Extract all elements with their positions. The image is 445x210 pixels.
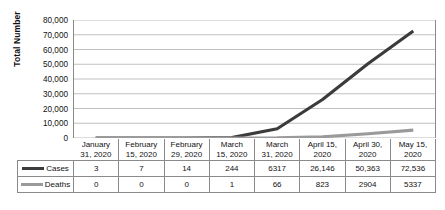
table-header-row: January31, 2020February15, 2020February2… [18, 139, 436, 161]
cell-deaths-4: 1 [209, 177, 254, 193]
table-corner-cell [18, 139, 74, 161]
category-header-1: January31, 2020 [74, 139, 119, 161]
category-header-3: February29, 2020 [164, 139, 209, 161]
table-row: Deaths00016682329045337 [18, 177, 436, 193]
table-row: Cases3714244631726,14650,36372,536 [18, 161, 436, 177]
cell-cases-8: 72,536 [390, 161, 435, 177]
legend-swatch-icon [21, 183, 43, 186]
category-header-line: May 15, [399, 140, 427, 149]
y-tick-60000: 60,000 [8, 45, 68, 54]
category-header-line: 15, 2020 [216, 150, 247, 159]
category-header-2: February15, 2020 [119, 139, 164, 161]
cell-cases-7: 50,363 [345, 161, 390, 177]
category-header-line: March [221, 140, 243, 149]
legend-swatch-icon [22, 167, 44, 170]
category-header-line: 2020 [313, 150, 331, 159]
cell-deaths-7: 2904 [345, 177, 390, 193]
category-header-line: 2020 [359, 150, 377, 159]
cell-cases-3: 14 [164, 161, 209, 177]
category-header-line: 31, 2020 [80, 150, 111, 159]
y-tick-70000: 70,000 [8, 30, 68, 39]
category-header-line: February [171, 140, 203, 149]
cell-cases-1: 3 [74, 161, 119, 177]
category-header-line: March [266, 140, 288, 149]
series-line-cases [96, 31, 414, 138]
category-header-line: April 15, [308, 140, 337, 149]
plot-area [73, 20, 436, 138]
category-header-line: 2020 [404, 150, 422, 159]
line-chart-svg [73, 20, 436, 138]
cell-cases-2: 7 [119, 161, 164, 177]
category-header-line: 31, 2020 [262, 150, 293, 159]
category-header-line: January [82, 140, 110, 149]
legend-label: Deaths [45, 180, 70, 189]
y-tick-20000: 20,000 [8, 104, 68, 113]
legend-item-cases[interactable]: Cases [18, 161, 74, 177]
cell-deaths-8: 5337 [390, 177, 435, 193]
cell-deaths-2: 0 [119, 177, 164, 193]
category-header-7: April 30,2020 [345, 139, 390, 161]
legend-label: Cases [46, 164, 69, 173]
y-tick-10000: 10,000 [8, 119, 68, 128]
cell-deaths-5: 66 [255, 177, 300, 193]
y-tick-40000: 40,000 [8, 75, 68, 84]
category-header-4: March15, 2020 [209, 139, 254, 161]
category-header-line: 29, 2020 [171, 150, 202, 159]
y-tick-50000: 50,000 [8, 60, 68, 69]
category-header-line: February [125, 140, 157, 149]
category-header-line: April 30, [353, 140, 382, 149]
data-table: January31, 2020February15, 2020February2… [17, 139, 436, 193]
category-header-8: May 15,2020 [390, 139, 435, 161]
cell-cases-5: 6317 [255, 161, 300, 177]
chart-figure: Total Number 80,00070,00060,00050,00040,… [0, 0, 445, 210]
category-header-line: 15, 2020 [126, 150, 157, 159]
cell-cases-4: 244 [209, 161, 254, 177]
legend-item-deaths[interactable]: Deaths [18, 177, 74, 193]
y-tick-80000: 80,000 [8, 16, 68, 25]
category-header-5: March31, 2020 [255, 139, 300, 161]
category-header-6: April 15,2020 [300, 139, 345, 161]
cell-deaths-1: 0 [74, 177, 119, 193]
cell-deaths-3: 0 [164, 177, 209, 193]
y-tick-30000: 30,000 [8, 89, 68, 98]
cell-deaths-6: 823 [300, 177, 345, 193]
cell-cases-6: 26,146 [300, 161, 345, 177]
